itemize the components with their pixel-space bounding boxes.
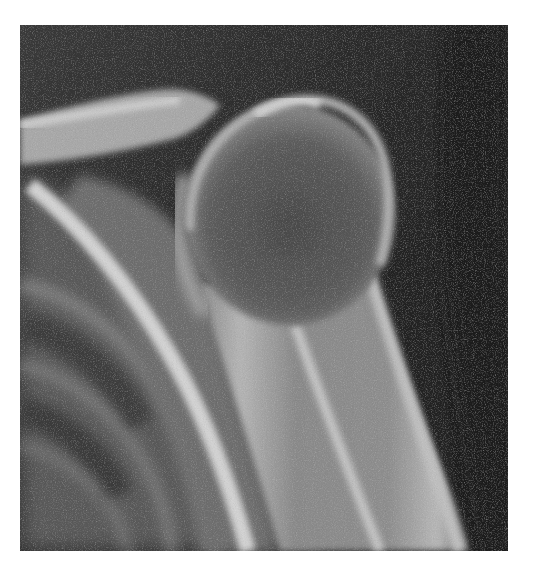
page (0, 0, 533, 562)
radiograph-svg (20, 25, 508, 551)
shoulder-radiograph-image (20, 25, 508, 551)
